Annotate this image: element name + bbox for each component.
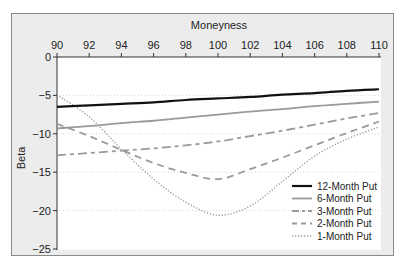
y-tick-label: −15 — [32, 166, 51, 178]
x-tick-label: 96 — [147, 39, 159, 51]
legend-label: 1-Month Put — [317, 231, 372, 242]
x-axis-ticks: 9092949698100102104106108110 — [51, 39, 388, 57]
x-tick-label: 90 — [51, 39, 63, 51]
y-tick-label: −20 — [32, 205, 51, 217]
y-axis-title: Beta — [15, 146, 27, 170]
line-chart: 9092949698100102104106108110 0−5−10−15−2… — [0, 0, 406, 269]
legend-label: 12-Month Put — [317, 181, 377, 192]
x-tick-label: 102 — [241, 39, 259, 51]
x-tick-label: 104 — [273, 39, 291, 51]
x-axis-title: Moneyness — [191, 19, 248, 31]
y-axis-ticks: 0−5−10−15−20−25 — [32, 51, 57, 255]
y-tick-label: 0 — [45, 51, 51, 63]
x-tick-label: 94 — [115, 39, 127, 51]
legend-label: 6-Month Put — [317, 193, 372, 204]
legend-label: 2-Month Put — [317, 218, 372, 229]
x-tick-label: 110 — [370, 39, 388, 51]
y-tick-label: −5 — [38, 89, 51, 101]
x-tick-label: 100 — [209, 39, 227, 51]
x-tick-label: 98 — [180, 39, 192, 51]
y-tick-label: −25 — [32, 243, 51, 255]
x-tick-label: 92 — [83, 39, 95, 51]
x-tick-label: 108 — [338, 39, 356, 51]
legend-label: 3-Month Put — [317, 206, 372, 217]
x-tick-label: 106 — [305, 39, 323, 51]
y-tick-label: −10 — [32, 128, 51, 140]
